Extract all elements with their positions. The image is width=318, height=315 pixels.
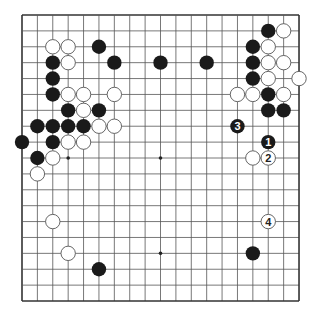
move-number-label: 2 [265,152,271,164]
white-stone[interactable] [61,87,75,101]
white-stone[interactable] [61,40,75,54]
white-stone[interactable] [276,24,290,38]
black-stone[interactable] [261,87,275,101]
white-stone[interactable] [276,55,290,69]
black-stone[interactable] [46,87,60,101]
black-stone[interactable] [246,246,260,260]
white-stone[interactable] [61,246,75,260]
white-stone[interactable] [246,151,260,165]
black-stone[interactable] [30,151,44,165]
numbered-white-stone[interactable]: 2 [261,151,275,165]
black-stone[interactable] [46,55,60,69]
black-stone[interactable] [246,71,260,85]
black-stone[interactable] [92,103,106,117]
white-stone[interactable] [261,71,275,85]
black-stone[interactable] [261,24,275,38]
white-stone[interactable] [292,71,306,85]
white-stone[interactable] [107,87,121,101]
black-stone[interactable] [46,135,60,149]
white-stone[interactable] [261,55,275,69]
white-stone[interactable] [61,55,75,69]
white-stone[interactable] [92,119,106,133]
white-stone[interactable] [46,214,60,228]
move-number-label: 4 [265,216,272,228]
black-stone[interactable] [46,119,60,133]
numbered-black-stone[interactable]: 1 [261,135,275,149]
star-point [159,252,163,256]
black-stone[interactable] [61,103,75,117]
white-stone[interactable] [261,40,275,54]
white-stone[interactable] [230,87,244,101]
black-stone[interactable] [246,40,260,54]
numbered-black-stone[interactable]: 3 [230,119,244,133]
black-stone[interactable] [30,119,44,133]
white-stone[interactable] [76,103,90,117]
black-stone[interactable] [92,262,106,276]
white-stone[interactable] [61,135,75,149]
white-stone[interactable] [30,167,44,181]
black-stone[interactable] [199,55,213,69]
black-stone[interactable] [46,71,60,85]
white-stone[interactable] [76,135,90,149]
black-stone[interactable] [15,135,29,149]
star-point [66,156,70,160]
white-stone[interactable] [76,87,90,101]
black-stone[interactable] [153,55,167,69]
move-number-label: 1 [265,136,271,148]
black-stone[interactable] [107,55,121,69]
white-stone[interactable] [107,119,121,133]
black-stone[interactable] [76,119,90,133]
white-stone[interactable] [276,87,290,101]
white-stone[interactable] [246,87,260,101]
black-stone[interactable] [61,119,75,133]
star-point [159,156,163,160]
white-stone[interactable] [46,40,60,54]
black-stone[interactable] [246,55,260,69]
black-stone[interactable] [261,103,275,117]
black-stone[interactable] [92,40,106,54]
move-number-label: 3 [234,120,240,132]
black-stone[interactable] [276,103,290,117]
numbered-white-stone[interactable]: 4 [261,214,275,228]
go-board[interactable]: 1234 [0,0,318,315]
white-stone[interactable] [46,151,60,165]
